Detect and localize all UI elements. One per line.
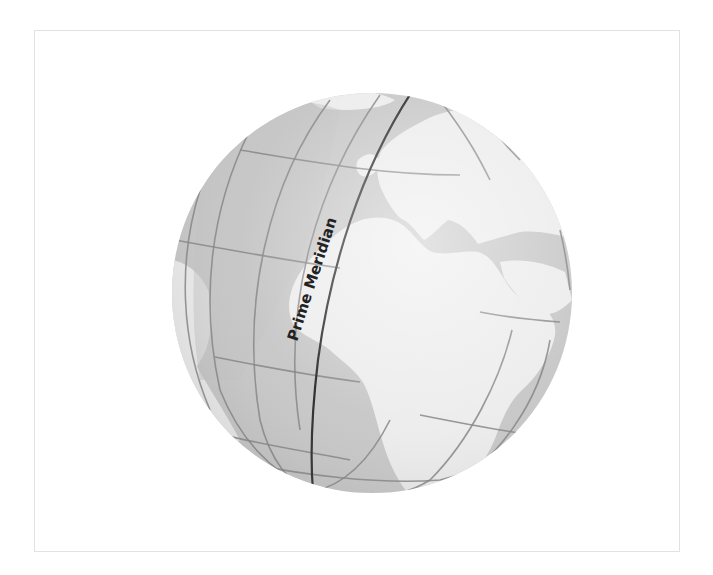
globe-shading xyxy=(172,93,572,493)
globe-diagram: Prime Meridian xyxy=(0,0,713,575)
